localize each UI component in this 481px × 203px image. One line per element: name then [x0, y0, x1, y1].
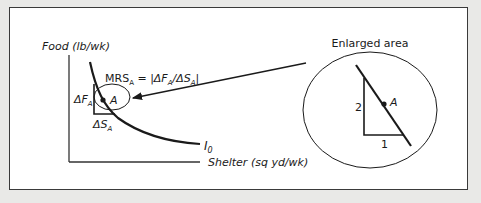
- enlarged-point-a-label: A: [389, 96, 398, 109]
- run-label: 1: [381, 138, 388, 151]
- enlarged-area-title: Enlarged area: [332, 37, 409, 50]
- indifference-curve-diagram: Food (lb/wk) Shelter (sq yd/wk) I0 A ΔFA…: [0, 0, 481, 203]
- enlarged-point-a-dot: [381, 101, 386, 106]
- point-a-label: A: [109, 94, 118, 107]
- delta-f-label: ΔFA: [73, 93, 93, 108]
- y-axis-label: Food (lb/wk): [42, 40, 110, 53]
- curve-label: I0: [204, 139, 213, 155]
- x-axis-label: Shelter (sq yd/wk): [208, 156, 308, 169]
- delta-s-label: ΔSA: [92, 118, 113, 133]
- point-a-dot: [100, 97, 105, 102]
- rise-label: 2: [355, 101, 362, 114]
- mrs-formula: MRSA = |ΔFA/ΔSA|: [105, 72, 199, 87]
- enlarged-area-circle: [303, 52, 437, 168]
- figure-stage: Food (lb/wk) Shelter (sq yd/wk) I0 A ΔFA…: [0, 0, 481, 203]
